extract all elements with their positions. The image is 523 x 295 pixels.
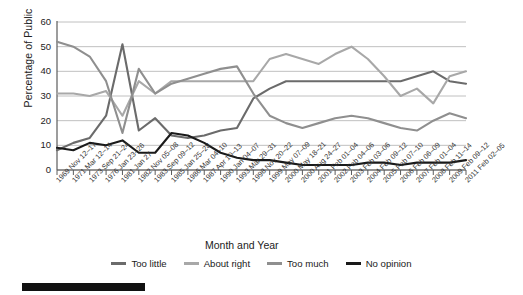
chart-figure: Percentage of Public Month and Year 0102… — [0, 0, 523, 295]
y-tick-label: 10 — [27, 139, 51, 150]
y-tick-label: 50 — [27, 41, 51, 52]
y-tick-label: 20 — [27, 115, 51, 126]
legend-label: No opinion — [366, 258, 412, 269]
line-swatch-no-opinion — [346, 262, 361, 265]
legend-item: About right — [184, 258, 250, 269]
line-swatch-about-right — [184, 262, 199, 265]
chart-legend: Too littleAbout rightToo muchNo opinion — [0, 258, 523, 269]
y-tick-label: 40 — [27, 65, 51, 76]
line-swatch-too-little — [111, 262, 126, 265]
y-tick-label: 0 — [27, 164, 51, 175]
legend-label: Too little — [131, 258, 166, 269]
line-swatch-too-much — [267, 262, 282, 265]
legend-label: About right — [204, 258, 250, 269]
series-line — [57, 42, 466, 133]
legend-item: No opinion — [346, 258, 412, 269]
legend-item: Too much — [267, 258, 329, 269]
legend-label: Too much — [287, 258, 329, 269]
y-tick-label: 60 — [27, 16, 51, 27]
series-line — [57, 44, 466, 150]
legend-item: Too little — [111, 258, 166, 269]
scan-artifact-bar — [22, 283, 145, 291]
y-tick-label: 30 — [27, 90, 51, 101]
